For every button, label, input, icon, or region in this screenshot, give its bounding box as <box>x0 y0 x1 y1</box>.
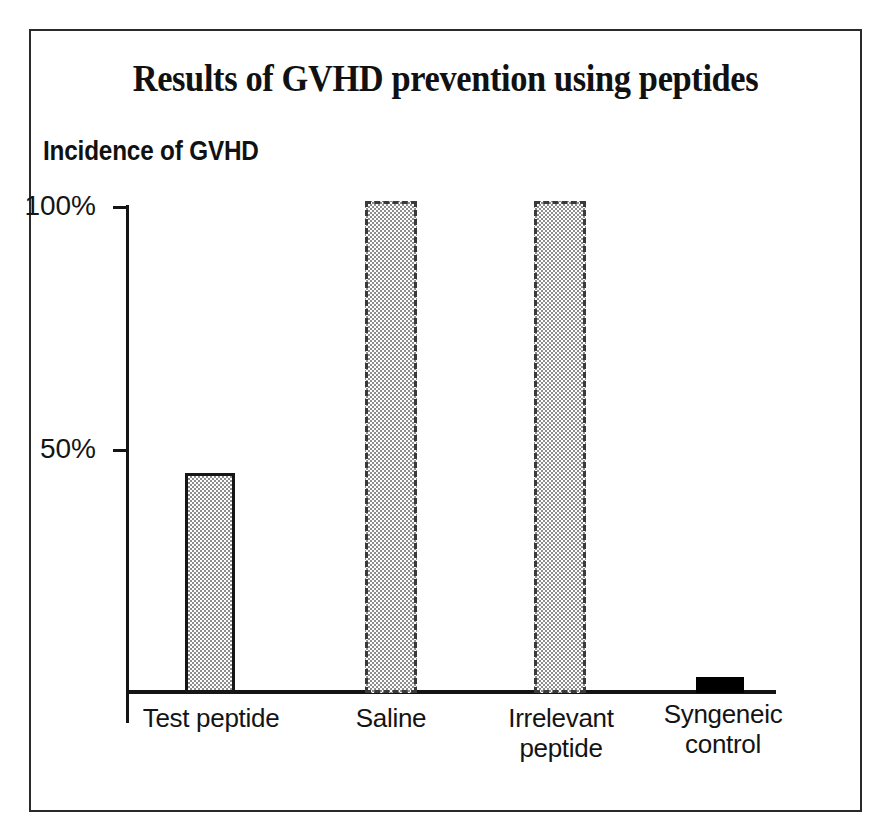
bar-saline <box>365 201 417 693</box>
plot-area: 100% 50% Test peptide Saline Irrelevant … <box>31 31 860 810</box>
y-axis-tick-label-50: 50% <box>40 433 96 465</box>
figure-frame: Results of GVHD prevention using peptide… <box>29 29 862 812</box>
bar-irrelevant-peptide <box>534 201 586 693</box>
bar-test-peptide <box>185 473 235 693</box>
category-label-saline: Saline <box>311 703 471 733</box>
y-axis-tick-50 <box>113 449 128 452</box>
category-label-irrelevant-peptide: Irrelevant peptide <box>481 703 641 763</box>
category-label-test-peptide: Test peptide <box>111 703 311 733</box>
y-axis-tick-100 <box>113 206 128 209</box>
y-axis-line <box>126 205 129 723</box>
bar-syngeneic-control <box>696 677 744 693</box>
category-label-syngeneic-control: Syngeneic control <box>643 699 803 759</box>
y-axis-tick-label-100: 100% <box>24 190 96 222</box>
